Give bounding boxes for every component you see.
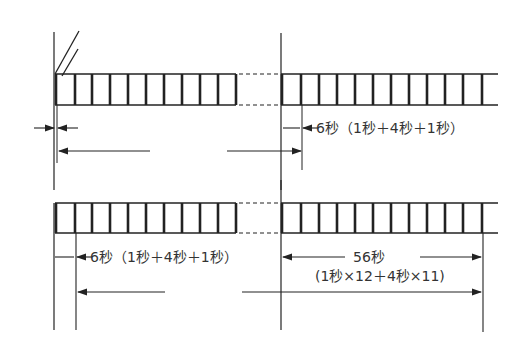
break-slash-2: [62, 49, 78, 76]
duration-label: 56秒: [351, 249, 387, 265]
bottom-row-left-pulses: [55, 203, 236, 233]
timing-diagram: [0, 0, 527, 349]
top-interval-label: 6秒（1秒＋4秒＋1秒）: [316, 120, 464, 136]
duration-formula-label: (1秒×12＋4秒×11): [315, 268, 445, 284]
top-row-left-pulses: [55, 74, 236, 105]
bottom-interval-label: 6秒（1秒＋4秒＋1秒）: [90, 249, 238, 265]
bottom-row-right-pulses: [281, 203, 498, 233]
top-row-right-pulses: [281, 74, 498, 105]
